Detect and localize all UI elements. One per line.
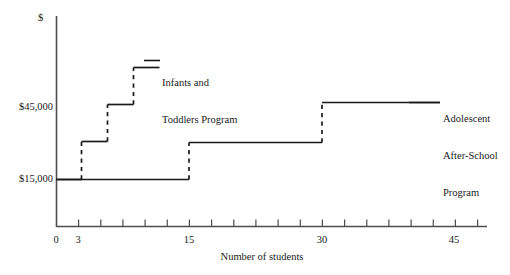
x-axis-ticks xyxy=(79,220,478,227)
step-chart-figure: $ $45,000 $15,000 0 3 15 30 45 Number of… xyxy=(0,0,510,275)
x-tick-label-15: 15 xyxy=(179,234,199,246)
y-tick-label-15000: $15,000 xyxy=(5,173,53,185)
series-annotation-infants-line1: Infants and xyxy=(162,77,237,89)
series-adolescent-afterschool xyxy=(57,103,441,180)
series-annotation-adolescent-line2: After-School xyxy=(443,150,498,162)
x-tick-label-45: 45 xyxy=(444,234,464,246)
series-annotation-adolescent-afterschool: Adolescent After-School Program xyxy=(443,88,498,224)
series-annotation-infants-toddlers: Infants and Toddlers Program xyxy=(162,52,237,151)
series-infants-toddlers xyxy=(57,68,160,180)
axis-lines xyxy=(57,16,488,227)
x-tick-label-3: 3 xyxy=(68,234,88,246)
y-axis-unit-label: $ xyxy=(38,12,43,24)
series-annotation-adolescent-line1: Adolescent xyxy=(443,113,498,125)
series-annotation-adolescent-line3: Program xyxy=(443,187,498,199)
series-annotation-infants-line2: Toddlers Program xyxy=(162,114,237,126)
x-tick-label-0: 0 xyxy=(46,234,66,246)
x-tick-label-30: 30 xyxy=(312,234,332,246)
x-axis-title: Number of students xyxy=(192,251,332,263)
y-tick-label-45000: $45,000 xyxy=(5,101,53,113)
